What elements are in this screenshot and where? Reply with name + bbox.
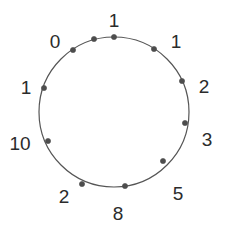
node-label: 3 [202, 130, 213, 149]
graph-node-dot [70, 47, 75, 52]
node-label: 5 [173, 184, 184, 203]
cycle-graph-canvas [0, 0, 229, 236]
node-label: 0 [50, 32, 61, 51]
node-label: 1 [109, 11, 120, 30]
graph-node-dot [182, 120, 187, 125]
graph-node-dot [160, 158, 165, 163]
node-label: 2 [199, 77, 210, 96]
graph-node-dot [91, 36, 96, 41]
graph-node-dot [179, 78, 184, 83]
graph-node-dot [151, 46, 156, 51]
graph-node-dot [41, 85, 46, 90]
node-label: 1 [171, 32, 182, 51]
graph-node-dot [45, 138, 50, 143]
graph-circle-edge [39, 37, 189, 187]
graph-node-dot [79, 181, 84, 186]
node-label: 8 [113, 204, 124, 223]
node-label: 1 [21, 78, 32, 97]
node-label: 2 [59, 187, 70, 206]
cycle-graph-figure: 11235821010 [0, 0, 229, 236]
graph-node-dot [111, 34, 116, 39]
graph-node-dot [122, 183, 127, 188]
node-label: 10 [9, 134, 30, 153]
